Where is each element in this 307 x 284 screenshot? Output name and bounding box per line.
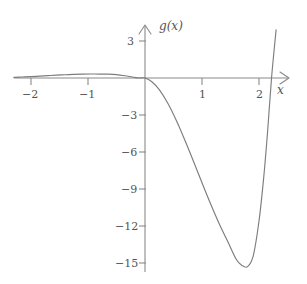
y-tick-label--6: −6 (121, 147, 137, 158)
axes-group (14, 25, 289, 272)
y-tick-label--3: −3 (121, 110, 137, 121)
y-tick-label--9: −9 (121, 184, 137, 195)
x-axis-label: x (277, 84, 284, 96)
x-tick-label--2: −2 (22, 89, 38, 100)
y-tick-label-3: 3 (127, 36, 134, 47)
y-tick-label--12: −12 (115, 221, 138, 232)
plot-canvas (0, 0, 307, 284)
x-tick-label--1: −1 (79, 89, 95, 100)
x-tick-label-1: 1 (199, 89, 206, 100)
function-graph-figure: g(x) x −2 −1 1 2 3 −3 −6 −9 −12 −15 (0, 0, 307, 284)
y-tick-label--15: −15 (115, 258, 138, 269)
y-axis-label: g(x) (159, 20, 183, 32)
x-tick-label-2: 2 (256, 89, 263, 100)
